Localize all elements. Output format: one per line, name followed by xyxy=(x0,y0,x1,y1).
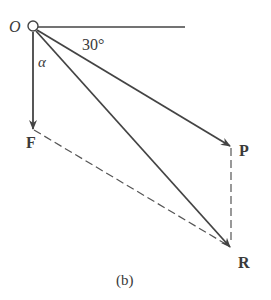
vector-p-label: P xyxy=(239,142,249,159)
force-diagram: O 30° α F P R (b) xyxy=(0,0,271,300)
origin-point-icon xyxy=(28,21,38,31)
alpha-label: α xyxy=(38,54,47,70)
vector-r-label: R xyxy=(238,254,250,271)
angle-label: 30° xyxy=(82,36,104,53)
dashed-line-f-to-r xyxy=(34,130,229,246)
figure-caption: (b) xyxy=(116,272,134,289)
origin-label: O xyxy=(9,18,21,35)
vector-r-arrow xyxy=(36,31,230,247)
vector-f-label: F xyxy=(26,134,36,151)
vector-p-arrow xyxy=(37,30,230,146)
